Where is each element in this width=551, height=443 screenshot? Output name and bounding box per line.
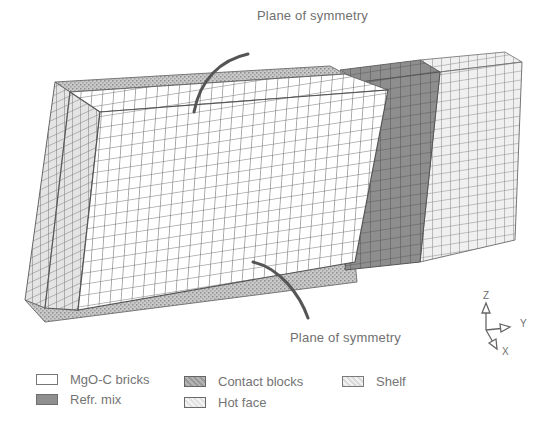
legend-item-contact-blocks: Contact blocks <box>184 374 303 389</box>
swatch-refr-mix <box>36 394 58 405</box>
legend-label: Hot face <box>218 395 266 410</box>
swatch-shelf <box>342 376 364 387</box>
axis-x-label: X <box>502 346 509 357</box>
legend-label: Refr. mix <box>70 392 121 407</box>
axis-triad-icon <box>482 303 510 349</box>
axis-y-label: Y <box>520 318 527 329</box>
legend-label: MgO-C bricks <box>70 372 149 387</box>
legend-label: Contact blocks <box>218 374 303 389</box>
swatch-contact-blocks <box>184 376 206 387</box>
legend: MgO-C bricks Refr. mix Contact blocks Ho… <box>36 372 516 422</box>
legend-item-shelf: Shelf <box>342 374 406 389</box>
plane-of-symmetry-bottom-label: Plane of symmetry <box>290 330 401 345</box>
legend-item-hot-face: Hot face <box>184 395 266 410</box>
legend-item-mgo-c-bricks: MgO-C bricks <box>36 372 149 387</box>
plane-of-symmetry-top-label: Plane of symmetry <box>257 8 368 23</box>
legend-item-refr-mix: Refr. mix <box>36 392 121 407</box>
axis-z-label: Z <box>483 290 489 301</box>
swatch-hot-face <box>184 397 206 408</box>
legend-label: Shelf <box>376 374 406 389</box>
swatch-mgo-c-bricks <box>36 374 58 385</box>
